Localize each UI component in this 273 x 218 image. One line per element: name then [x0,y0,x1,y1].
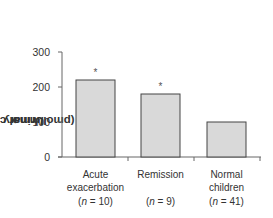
significance-marker: * [159,81,163,92]
x-category-label: children [209,182,244,193]
x-category-label: Remission [137,169,184,180]
x-category-label: Acute [83,169,109,180]
x-category-label: (n = 9) [146,196,175,207]
x-category-label: Normal [210,169,242,180]
significance-marker: * [94,67,98,78]
x-category-label: (n = 41) [209,196,244,207]
bar [207,122,246,157]
y-tick-label: 300 [32,46,50,58]
y-tick-label: 0 [44,151,50,163]
bar [141,94,180,157]
bar-chart: 0100200300*Acuteexacerbation(n = 10)*Rem… [0,0,273,218]
x-category-label: exacerbation [67,182,124,193]
x-category-label: (n = 10) [78,196,113,207]
bar [76,80,115,157]
y-tick-label: 200 [32,81,50,93]
y-tick-label: 100 [32,116,50,128]
